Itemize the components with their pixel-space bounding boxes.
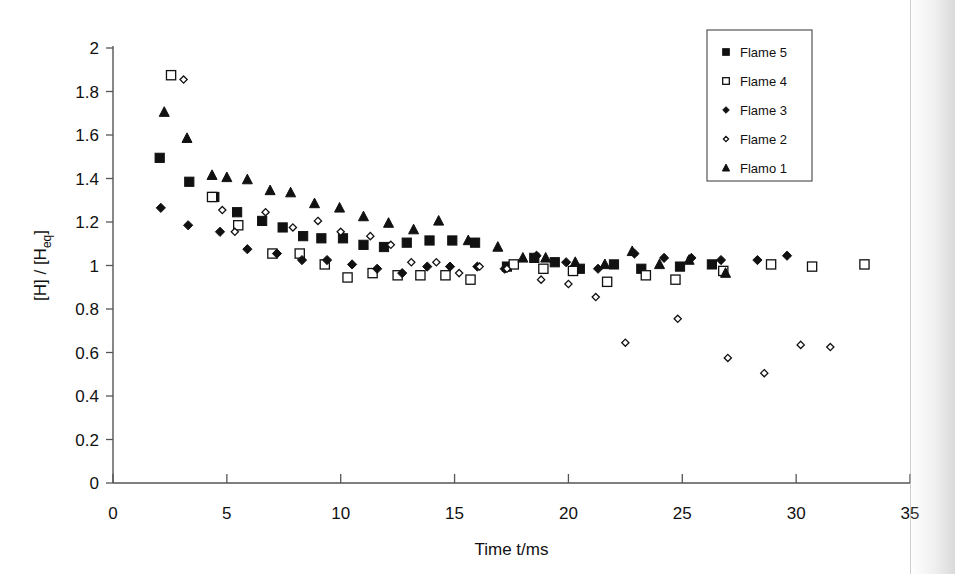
marker-open-diamond (408, 259, 415, 266)
x-tick-label: 10 (331, 504, 350, 523)
marker-open-square (539, 264, 548, 273)
marker-filled-triangle (310, 198, 320, 208)
y-tick-label: 1.6 (75, 126, 99, 145)
marker-open-square (166, 71, 175, 80)
marker-filled-triangle (358, 211, 368, 221)
marker-filled-diamond (423, 262, 432, 271)
marker-open-square (723, 78, 730, 85)
marker-filled-diamond (243, 245, 252, 254)
x-axis-title: Time t/ms (475, 540, 549, 559)
marker-open-diamond (219, 206, 226, 213)
marker-filled-triangle (541, 252, 551, 262)
marker-open-square (568, 266, 577, 275)
legend: Flame 5Flame 4Flame 3Flame 2Flamo 1 (707, 30, 812, 181)
marker-open-diamond (674, 315, 681, 322)
marker-open-square (603, 277, 612, 286)
marker-open-diamond (314, 217, 321, 224)
marker-filled-square (185, 177, 194, 186)
marker-filled-square (155, 153, 164, 162)
marker-open-square (860, 260, 869, 269)
marker-filled-triangle (265, 185, 275, 195)
marker-filled-triangle (335, 202, 345, 212)
chart-screenshot: 00.20.40.60.811.21.41.61.82 051015202530… (0, 0, 955, 574)
marker-filled-triangle (493, 242, 503, 252)
y-axis-title-subscript: eq (40, 235, 54, 248)
marker-open-square (766, 260, 775, 269)
marker-open-diamond (367, 233, 374, 240)
marker-open-diamond (433, 259, 440, 266)
legend-label: Flame 2 (740, 132, 787, 147)
marker-filled-square (723, 49, 730, 56)
marker-filled-diamond (184, 221, 193, 230)
marker-filled-diamond (782, 251, 791, 260)
y-tick-label: 2 (90, 39, 99, 58)
x-tick-label: 5 (222, 504, 231, 523)
marker-open-diamond (622, 339, 629, 346)
legend-label: Flame 4 (740, 74, 787, 89)
marker-open-square (466, 275, 475, 284)
y-tick-label: 0.4 (75, 387, 99, 406)
x-axis-ticks: 05101520253035 (108, 474, 919, 523)
marker-filled-square (233, 208, 242, 217)
marker-open-diamond (761, 370, 768, 377)
marker-filled-square (550, 258, 559, 267)
y-axis-title-close: ] (31, 230, 50, 235)
marker-filled-triangle (286, 187, 296, 197)
marker-filled-square (448, 236, 457, 245)
y-axis-title: [H] / [Heq] (31, 230, 54, 301)
marker-filled-square (258, 216, 267, 225)
marker-filled-square (675, 262, 684, 271)
marker-open-square (207, 192, 216, 201)
x-tick-label: 15 (445, 504, 464, 523)
scatter-plot: 00.20.40.60.811.21.41.61.82 051015202530… (0, 0, 955, 574)
marker-open-square (671, 275, 680, 284)
y-tick-label: 0.2 (75, 431, 99, 450)
x-tick-label: 25 (673, 504, 692, 523)
marker-open-square (509, 260, 518, 269)
y-tick-label: 1.4 (75, 170, 99, 189)
marker-open-square (641, 271, 650, 280)
legend-label: Flame 3 (740, 103, 787, 118)
marker-filled-square (425, 236, 434, 245)
svg-text:[H] / [Heq]: [H] / [Heq] (31, 230, 54, 301)
marker-filled-triangle (600, 259, 610, 269)
x-tick-label: 30 (787, 504, 806, 523)
x-tick-label: 0 (108, 504, 117, 523)
y-tick-label: 0.8 (75, 300, 99, 319)
marker-filled-diamond (716, 255, 725, 264)
marker-open-diamond (592, 293, 599, 300)
marker-filled-diamond (753, 255, 762, 264)
marker-open-diamond (289, 224, 296, 231)
marker-open-diamond (538, 276, 545, 283)
legend-label: Flamo 1 (740, 161, 787, 176)
marker-filled-triangle (222, 172, 232, 182)
x-tick-label: 20 (559, 504, 578, 523)
y-tick-label: 1 (90, 257, 99, 276)
marker-filled-square (402, 238, 411, 247)
x-tick-label: 35 (901, 504, 920, 523)
marker-filled-square (317, 234, 326, 243)
marker-open-diamond (180, 76, 187, 83)
marker-open-diamond (827, 343, 834, 350)
y-axis-ticks: 00.20.40.60.811.21.41.61.82 (75, 39, 113, 493)
marker-filled-diamond (562, 258, 571, 267)
marker-filled-diamond (156, 203, 165, 212)
marker-filled-triangle (242, 174, 252, 184)
marker-open-square (343, 273, 352, 282)
marker-filled-triangle (182, 133, 192, 143)
marker-filled-square (278, 223, 287, 232)
marker-filled-square (359, 240, 368, 249)
marker-filled-diamond (445, 262, 454, 271)
marker-open-square (441, 271, 450, 280)
marker-filled-square (707, 260, 716, 269)
marker-filled-triangle (570, 257, 580, 267)
marker-open-square (807, 262, 816, 271)
marker-open-diamond (565, 280, 572, 287)
marker-filled-diamond (348, 260, 357, 269)
marker-open-diamond (456, 270, 463, 277)
marker-filled-triangle (434, 216, 444, 226)
marker-filled-triangle (518, 252, 528, 262)
y-tick-label: 0.6 (75, 344, 99, 363)
y-tick-label: 1.2 (75, 213, 99, 232)
y-axis-title-main: [H] / [H (31, 248, 50, 301)
